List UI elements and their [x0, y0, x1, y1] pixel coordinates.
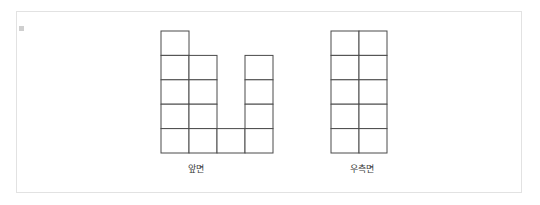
grid-cell — [161, 55, 189, 79]
grid-cell — [331, 104, 359, 128]
side-view-figure — [330, 30, 388, 154]
front-view-figure — [160, 30, 274, 154]
grid-cell — [245, 55, 273, 79]
grid-cell — [359, 104, 387, 128]
grid-cell — [161, 129, 189, 153]
grid-cell — [161, 104, 189, 128]
grid-cell — [189, 80, 217, 104]
grid-cell — [189, 55, 217, 79]
edge-marker — [19, 26, 24, 31]
grid-cell — [359, 129, 387, 153]
front-view-grid — [160, 30, 274, 154]
grid-cell — [189, 104, 217, 128]
grid-cell — [331, 129, 359, 153]
grid-cell — [359, 55, 387, 79]
grid-cell — [189, 129, 217, 153]
side-view-label: 우측면 — [300, 163, 424, 175]
grid-cell — [245, 104, 273, 128]
grid-cell — [161, 80, 189, 104]
grid-cell — [331, 55, 359, 79]
side-view-grid — [330, 30, 388, 154]
grid-cell — [331, 31, 359, 55]
grid-cell — [245, 129, 273, 153]
front-view-label: 앞면 — [120, 163, 272, 175]
grid-cell — [359, 31, 387, 55]
grid-cell — [245, 80, 273, 104]
grid-cell — [161, 31, 189, 55]
grid-cell — [359, 80, 387, 104]
grid-cell — [331, 80, 359, 104]
grid-cell — [217, 129, 245, 153]
